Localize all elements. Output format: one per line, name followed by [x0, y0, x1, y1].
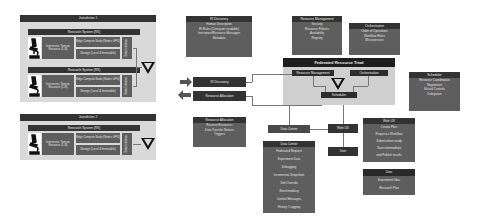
state-label: State Initiation — [125, 39, 128, 57]
storage-cell: Storage (Local & Immutable) — [76, 49, 120, 59]
edge-compute-cell: Edge Compute Node (Nodes GPU) — [76, 75, 120, 85]
triangle-inner — [144, 63, 152, 70]
ri-discovery-box: RI Discovery Human Description RI Rules … — [186, 16, 252, 57]
state-cell: State Initiation — [122, 133, 132, 155]
scheduler-item: Delegation — [409, 92, 460, 97]
microscope-icon — [28, 37, 41, 59]
instrument-cell: Instrument, Sensor, Resource (1-N) — [42, 75, 74, 97]
jurisdiction-2-panel: Jurisdiction 2 Research System (RS) Inst… — [20, 114, 156, 160]
outbound-arrow-icon — [183, 93, 191, 97]
ri-discovery-button[interactable]: RI Discovery — [193, 77, 246, 87]
resource-allocation-item: Triggers — [193, 132, 246, 137]
microscope-icon — [28, 75, 41, 97]
connector-line — [246, 82, 252, 83]
jurisdiction-1-panel: Jurisdiction 1 Research System (RS) Inst… — [20, 15, 156, 102]
web-ux-box: Web UX Create Plan Request a Workflow Su… — [363, 118, 415, 162]
state-label: State Initiation — [125, 77, 128, 95]
web-ux-item: Create Plan — [363, 124, 415, 131]
storage-cell: Storage (Local & Immutable) — [76, 145, 120, 155]
data-center-item: Debugging — [263, 163, 315, 171]
resource-allocation-button[interactable]: Resource Allocation — [193, 91, 246, 101]
user-box-title: User — [363, 169, 415, 176]
user-item: Research Plan — [363, 184, 415, 192]
bracket-line — [133, 86, 137, 87]
state-cell: State Initiation — [122, 75, 132, 97]
triangle-inner — [334, 79, 342, 86]
user-item: Experiment Idea — [363, 176, 415, 184]
connector-line — [368, 76, 369, 86]
ri-discovery-item: Metadata — [186, 36, 252, 41]
edge-compute-cell: Edge Compute Node (Nodes GPU) — [76, 133, 120, 143]
connector-line — [325, 86, 326, 92]
research-system-title: Research System (RS) — [28, 67, 140, 73]
connector-line — [313, 86, 325, 87]
jurisdiction-1-title: Jurisdiction 1 — [20, 15, 156, 22]
connector-line — [310, 129, 328, 130]
data-center-item: Federated Request — [263, 147, 315, 155]
orchestration-box: Orchestration Order of Operations Workfl… — [349, 23, 400, 55]
data-center-item: Benchmarking — [263, 187, 315, 195]
web-ux-item: Submit when ready — [363, 138, 415, 145]
connector-line — [133, 144, 141, 145]
triad-panel: Resource Management Orchestration Schedu… — [283, 67, 395, 105]
connector-line — [343, 105, 344, 124]
storage-cell: Storage (Local & Immutable) — [76, 87, 120, 97]
web-ux-item: and Publish results — [363, 152, 415, 159]
triad-orchestration: Orchestration — [350, 70, 388, 76]
state-label: State Initiation — [125, 135, 128, 153]
scheduler-box: Scheduler Resource Coordination Negotiat… — [409, 72, 460, 111]
connector-line — [252, 74, 292, 75]
connector-line — [289, 105, 290, 125]
connector-line — [313, 76, 314, 86]
research-system-title: Research System (RS) — [28, 125, 140, 131]
connector-line — [252, 105, 322, 106]
data-center-item: Control Messages — [263, 195, 315, 203]
data-center-node[interactable]: Data Center — [268, 125, 310, 133]
connector-line — [252, 74, 253, 82]
data-center-item: Experiment Data — [263, 155, 315, 163]
edge-compute-cell: Edge Compute Node (Nodes GPU) — [76, 37, 120, 47]
web-ux-node[interactable]: Web UX — [328, 124, 358, 133]
state-cell: State Initiation — [122, 37, 132, 59]
data-center-item: Incremental Snapshots — [263, 171, 315, 179]
user-box: User Experiment Idea Research Plan — [363, 169, 415, 195]
connector-line — [353, 86, 354, 92]
triad-scheduler: Scheduler — [321, 92, 357, 98]
user-node[interactable]: User — [328, 147, 358, 156]
connector-line — [353, 86, 368, 87]
triad-title: Federated Resource Triad — [283, 58, 395, 67]
orchestration-item: Microservices — [349, 38, 400, 43]
resource-management-box: Resource Management Security Resource Po… — [292, 16, 342, 55]
resource-management-item: Registry — [292, 36, 342, 41]
resource-allocation-box: Resource Allocation Reserve Resources Da… — [193, 117, 246, 147]
inbound-arrow-head — [187, 77, 192, 87]
research-system-title: Research System (RS) — [28, 29, 140, 35]
web-ux-item: Request a Workflow — [363, 131, 415, 138]
data-center-box: Data Center Federated Request Experiment… — [263, 141, 315, 213]
instrument-cell: Instrument, Sensor, Resource (1-N) — [42, 37, 74, 59]
triangle-inner — [144, 139, 152, 146]
instrument-cell: Instrument, Sensor, Resource (1-N) — [42, 133, 74, 155]
microscope-icon — [28, 133, 41, 155]
data-center-item: History / Logging — [263, 203, 315, 211]
data-center-item: Soft Override — [263, 179, 315, 187]
jurisdiction-2-title: Jurisdiction 2 — [20, 114, 156, 121]
connector-line — [343, 133, 344, 147]
web-ux-item: Save intermediate — [363, 145, 415, 152]
